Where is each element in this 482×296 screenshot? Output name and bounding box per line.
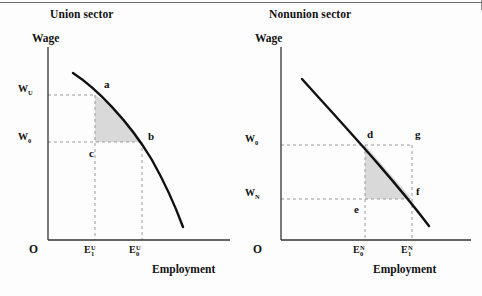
plot-nonunion-sector — [241, 0, 482, 296]
panel-nonunion-sector: Nonunion sector Wage O Employment W0 WN … — [241, 0, 482, 296]
panel-union-sector: Union sector Wage O Employment WU W0 EU1… — [0, 0, 241, 296]
plot-union-sector — [0, 0, 241, 296]
shaded-region-def — [365, 145, 412, 199]
labor-demand-curve-union — [73, 73, 183, 227]
figure-canvas: Union sector Wage O Employment WU W0 EU1… — [0, 0, 482, 296]
